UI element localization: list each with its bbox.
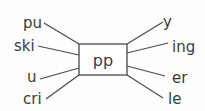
word-web-diagram: pp puskiucriyingerle (0, 0, 205, 111)
center-label: pp (93, 51, 113, 70)
connector-line-le (127, 75, 163, 98)
connector-line-ing (127, 43, 168, 53)
affix-label-cri: cri (23, 90, 42, 108)
affix-label-er: er (172, 69, 188, 87)
diagram-canvas: pp puskiucriyingerle (0, 0, 205, 111)
connector-line-cri (46, 75, 79, 99)
connector-line-ski (38, 46, 79, 55)
connector-line-y (127, 22, 163, 44)
connector-line-er (127, 66, 165, 76)
affix-label-ing: ing (172, 38, 195, 56)
affix-label-le: le (168, 90, 181, 108)
affix-label-pu: pu (23, 14, 42, 32)
affix-label-ski: ski (14, 37, 35, 55)
connector-line-pu (44, 23, 79, 44)
connector-line-u (40, 68, 79, 79)
affix-label-y: y (163, 13, 172, 31)
affix-label-u: u (27, 68, 37, 86)
